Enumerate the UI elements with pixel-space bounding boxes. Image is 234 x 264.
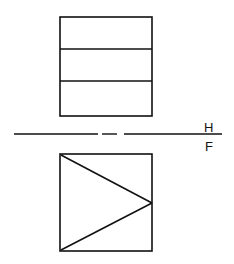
projection-diagram: H F: [0, 0, 234, 264]
fold-label-f: F: [205, 139, 213, 154]
fold-label-h: H: [204, 120, 213, 135]
front-view: [60, 154, 152, 251]
front-view-edge-upper: [61, 155, 152, 203]
front-view-edge-lower: [61, 203, 152, 250]
top-view-outline: [60, 17, 152, 116]
top-view: [60, 17, 152, 116]
front-view-outline: [60, 154, 152, 251]
